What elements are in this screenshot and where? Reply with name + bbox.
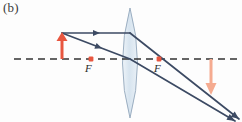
focal-label-right: F	[154, 63, 161, 74]
focal-point-right	[157, 57, 162, 62]
focal-label-left: F	[85, 63, 92, 74]
object-arrow	[57, 32, 68, 59]
parallel-ray-refracted	[130, 33, 239, 119]
focal-point-left	[89, 57, 94, 62]
ray-diagram-figure: (b)	[0, 0, 242, 122]
center-ray-arrowhead-incident	[94, 43, 103, 51]
ray-diagram-canvas	[0, 0, 242, 122]
center-ray-refracted	[130, 59, 235, 121]
parallel-ray-arrowhead-incident	[93, 30, 100, 36]
image-arrow	[206, 59, 217, 95]
